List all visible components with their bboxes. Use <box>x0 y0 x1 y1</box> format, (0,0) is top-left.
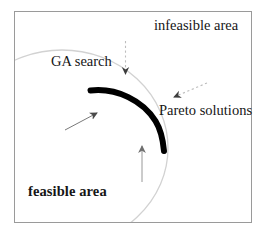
pareto-front-diagram: infeasible area GA search Pareto solutio… <box>0 0 267 236</box>
label-pareto-solutions: Pareto solutions <box>159 103 252 118</box>
label-infeasible-area: infeasible area <box>154 18 238 33</box>
label-ga-search: GA search <box>51 54 112 69</box>
diagram-canvas <box>0 0 267 236</box>
label-feasible-area: feasible area <box>28 184 107 199</box>
